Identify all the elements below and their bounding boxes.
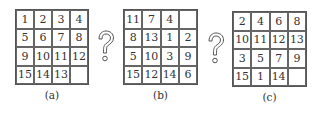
grid-cell: 2: [179, 29, 197, 48]
grid-cell: 7: [52, 29, 70, 48]
grid-cell: 7: [270, 49, 288, 68]
grid-cell: 14: [270, 68, 288, 87]
grid-cell: 15: [124, 66, 142, 85]
question-mark-icon: [206, 32, 225, 66]
puzzle-a: 1 2 3 4 5 6 7 8 9 10 11 12 15 14 13 (a): [15, 9, 89, 85]
grid-cell-empty: [288, 68, 306, 87]
puzzle-grid: 11 7 4 8 13 1 2 5 10 3 9 15 12 14 6: [123, 9, 198, 85]
puzzle-caption: (c): [232, 91, 307, 103]
puzzle-b: 11 7 4 8 13 1 2 5 10 3 9 15 12 14 6 (b): [123, 9, 198, 85]
grid-cell: 8: [70, 29, 88, 48]
grid-cell: 10: [34, 47, 52, 66]
grid-cell: 6: [270, 12, 288, 31]
grid-cell: 9: [288, 49, 306, 68]
puzzle-grid: 2 4 6 8 10 11 12 13 3 5 7 9 15 1 14: [232, 11, 307, 87]
grid-cell: 1: [251, 68, 269, 87]
puzzle-grid: 1 2 3 4 5 6 7 8 9 10 11 12 15 14 13: [15, 9, 89, 85]
grid-cell: 10: [233, 31, 251, 50]
question-mark-icon: [96, 30, 115, 64]
grid-cell: 2: [34, 10, 52, 29]
grid-cell: 5: [124, 47, 142, 66]
grid-cell: 15: [16, 66, 34, 85]
grid-cell: 1: [161, 29, 179, 48]
grid-cell-empty: [70, 66, 88, 85]
grid-cell: 13: [142, 29, 160, 48]
grid-cell: 1: [16, 10, 34, 29]
grid-cell: 7: [142, 10, 160, 29]
grid-cell: 10: [142, 47, 160, 66]
grid-cell: 11: [124, 10, 142, 29]
grid-cell: 9: [179, 47, 197, 66]
grid-cell: 4: [161, 10, 179, 29]
puzzle-c: 2 4 6 8 10 11 12 13 3 5 7 9 15 1 14 (c): [232, 11, 307, 87]
grid-cell: 14: [161, 66, 179, 85]
grid-cell: 3: [52, 10, 70, 29]
puzzle-caption: (a): [15, 89, 89, 101]
grid-cell: 9: [16, 47, 34, 66]
grid-cell: 13: [288, 31, 306, 50]
grid-cell: 6: [34, 29, 52, 48]
grid-cell: 5: [251, 49, 269, 68]
grid-cell: 14: [34, 66, 52, 85]
grid-cell: 3: [233, 49, 251, 68]
grid-cell: 12: [270, 31, 288, 50]
grid-cell: 2: [233, 12, 251, 31]
grid-cell: 8: [124, 29, 142, 48]
grid-cell: 13: [52, 66, 70, 85]
grid-cell: 15: [233, 68, 251, 87]
grid-cell: 11: [251, 31, 269, 50]
grid-cell: 3: [161, 47, 179, 66]
grid-cell: 11: [52, 47, 70, 66]
grid-cell: 12: [70, 47, 88, 66]
grid-cell: 5: [16, 29, 34, 48]
grid-cell: 4: [251, 12, 269, 31]
grid-cell: 4: [70, 10, 88, 29]
grid-cell: 6: [179, 66, 197, 85]
grid-cell: 12: [142, 66, 160, 85]
grid-cell-empty: [179, 10, 197, 29]
grid-cell: 8: [288, 12, 306, 31]
puzzle-caption: (b): [123, 89, 198, 101]
